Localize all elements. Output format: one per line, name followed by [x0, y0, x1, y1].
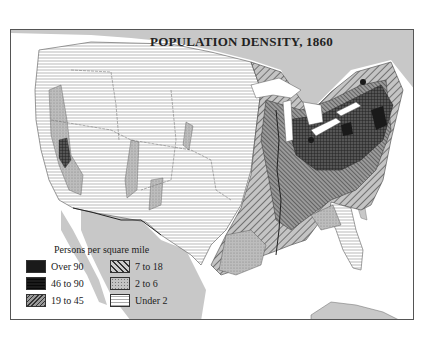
legend-label: Over 90 — [51, 261, 84, 272]
legend-item-over-90: Over 90 — [26, 260, 84, 273]
legend-label: 2 to 6 — [135, 278, 158, 289]
legend-label: 7 to 18 — [135, 261, 163, 272]
swatch-wide-diagonal — [110, 260, 130, 273]
legend-label: 19 to 45 — [51, 295, 84, 306]
legend-item-19-to-45: 19 to 45 — [26, 294, 84, 307]
map-title: POPULATION DENSITY, 1860 — [150, 34, 333, 50]
swatch-horizontal-lines — [110, 294, 130, 307]
legend-label: Under 2 — [135, 295, 168, 306]
swatch-dense-diagonal — [26, 294, 46, 307]
legend-item-under-2: Under 2 — [110, 294, 168, 307]
legend-label: 46 to 90 — [51, 278, 84, 289]
legend-item-7-to-18: 7 to 18 — [110, 260, 163, 273]
swatch-crosshatch — [26, 277, 46, 290]
swatch-solid-black — [26, 260, 46, 273]
swatch-stipple — [110, 277, 130, 290]
legend-item-2-to-6: 2 to 6 — [110, 277, 158, 290]
legend-title: Persons per square mile — [54, 244, 149, 255]
legend-item-46-to-90: 46 to 90 — [26, 277, 84, 290]
